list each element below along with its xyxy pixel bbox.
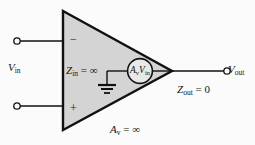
z-out-label: Zout = 0 — [177, 84, 210, 95]
a-v-label: Av = ∞ — [110, 124, 140, 135]
inverting-input-terminal[interactable] — [14, 38, 20, 44]
noninverting-input-terminal[interactable] — [14, 103, 20, 109]
v-in-label: Vin — [8, 62, 21, 73]
dependent-source-label: AvVin — [130, 66, 150, 76]
noninverting-input-sign: + — [70, 102, 77, 114]
z-in-label: Zin = ∞ — [66, 65, 98, 76]
v-out-label: Vout — [228, 64, 244, 75]
op-amp-figure: Vin Zin = ∞ Zout = 0 Vout Av = ∞ AvVin −… — [0, 0, 255, 145]
inverting-input-sign: − — [70, 33, 77, 45]
